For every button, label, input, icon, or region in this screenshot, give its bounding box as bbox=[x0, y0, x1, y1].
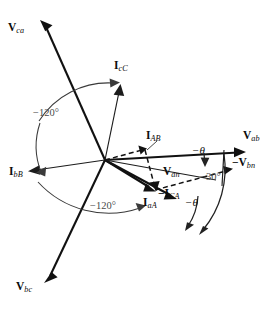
phasor-diagram-figure: Vca Vbc Vab IcC IbB IaA IAB −ICA Van −Vb… bbox=[0, 0, 278, 312]
label-v-an: Van bbox=[163, 166, 180, 180]
phasor-i-cC bbox=[105, 84, 124, 160]
label-angle-minus-theta-upper: −θ bbox=[192, 145, 205, 156]
label-i-aA: IaA bbox=[143, 197, 157, 211]
label-i-cC: IcC bbox=[114, 60, 128, 74]
label-angle-minus-30: −30° bbox=[200, 172, 221, 183]
label-v-bc: Vbc bbox=[16, 281, 32, 295]
label-v-ab: Vab bbox=[243, 130, 260, 144]
angle-arc-minus-30 bbox=[199, 154, 225, 235]
label-angle-minus-120-lower: −120° bbox=[90, 201, 116, 212]
label-i-AB: IAB bbox=[146, 130, 161, 144]
label-angle-minus-120-upper: −120° bbox=[33, 108, 59, 119]
label-neg-i-CA: −ICA bbox=[158, 188, 180, 202]
label-v-ca: Vca bbox=[8, 22, 24, 36]
label-i-bB: IbB bbox=[9, 166, 23, 180]
phasor-v-ca bbox=[40, 20, 105, 160]
label-neg-v-bn: −Vbn bbox=[232, 157, 255, 171]
phasor-v-bc bbox=[44, 160, 105, 283]
label-angle-minus-theta-lower: −θ bbox=[185, 197, 198, 208]
